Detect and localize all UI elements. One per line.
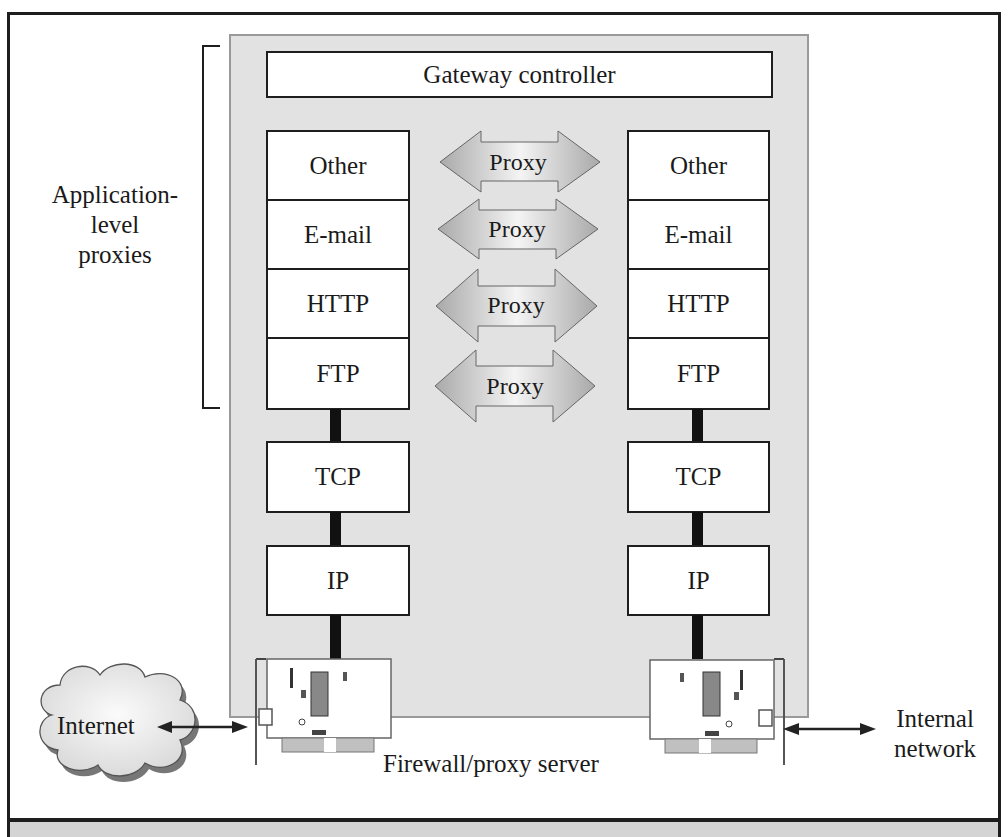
- internal-network-label: Internal network: [880, 704, 990, 764]
- label-line-1: Internal: [880, 704, 990, 734]
- firewall-to-internal-arrow: [783, 723, 876, 735]
- firewall-proxy-server-label: Firewall/proxy server: [383, 749, 599, 779]
- internet-to-firewall-arrow: [157, 721, 248, 733]
- connection-arrows: [0, 0, 1008, 837]
- label-line-2: network: [880, 734, 990, 764]
